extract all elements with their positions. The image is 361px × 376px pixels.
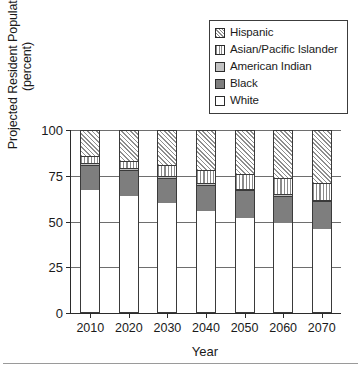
bar-segment-white-2050[interactable] [235,218,255,313]
bar-segment-white-2020[interactable] [119,196,139,313]
y-axis-tick-mark [66,176,71,177]
x-axis-tick-label: 2050 [231,321,259,335]
bar-segment-american-indian-2010[interactable] [80,163,100,165]
bar-segment-asian-pacific-islander-2020[interactable] [119,161,139,168]
bar-segment-american-indian-2040[interactable] [196,183,216,185]
bar-segment-hispanic-2040[interactable] [196,130,216,170]
bar-segment-hispanic-2060[interactable] [273,130,293,178]
legend-item-label: Black [230,75,258,92]
x-axis-tick-label: 2010 [76,321,104,335]
y-axis-title-line2: (percent) [20,42,34,91]
y-axis-tick-mark [66,313,71,314]
bar-segment-asian-pacific-islander-2060[interactable] [273,178,293,194]
legend-item-label: White [230,92,259,109]
bar-segment-asian-pacific-islander-2070[interactable] [312,183,332,199]
x-axis-tick-label: 2060 [269,321,297,335]
bar-segment-american-indian-2030[interactable] [157,176,177,178]
x-axis-tick-mark [129,313,130,318]
x-axis-tick-mark [245,313,246,318]
bar-2030[interactable] [157,130,177,313]
legend-item-hispanic[interactable]: Hispanic [215,24,342,41]
bar-segment-white-2060[interactable] [273,223,293,313]
x-axis-tick-mark [322,313,323,318]
y-axis-tick-mark [66,267,71,268]
bar-segment-white-2010[interactable] [80,190,100,313]
y-axis-tick-mark [66,130,71,131]
y-axis-tick-label: 50 [49,214,63,229]
legend-item-label: Asian/Pacific Islander [230,41,338,58]
bar-segment-black-2050[interactable] [235,190,255,217]
bar-segment-asian-pacific-islander-2010[interactable] [80,156,100,163]
bar-segment-american-indian-2050[interactable] [235,189,255,191]
black-swatch-icon [215,79,225,89]
y-axis-title: Projected Resident Population (percent) [6,0,34,158]
bar-2040[interactable] [196,130,216,313]
hispanic-swatch-icon [215,28,225,38]
bar-2010[interactable] [80,130,100,313]
chart-figure: Hispanic Asian/Pacific Islander American… [0,0,361,376]
bar-segment-white-2030[interactable] [157,203,177,313]
legend-item-white[interactable]: White [215,92,342,109]
y-axis-title-line1: Projected Resident Population [6,0,20,149]
bar-segment-white-2040[interactable] [196,211,216,313]
bar-2060[interactable] [273,130,293,313]
bar-2020[interactable] [119,130,139,313]
bar-2050[interactable] [235,130,255,313]
y-axis-tick-label: 0 [56,306,63,321]
bar-segment-american-indian-2060[interactable] [273,194,293,196]
bar-segment-black-2030[interactable] [157,178,177,204]
bar-segment-hispanic-2030[interactable] [157,130,177,165]
bar-segment-black-2070[interactable] [312,201,332,228]
bar-segment-american-indian-2070[interactable] [312,200,332,202]
asian-pacific-islander-swatch-icon [215,45,225,55]
bar-segment-black-2020[interactable] [119,170,139,196]
plot-area: 0255075100 2010202020302040205020602070 [70,130,341,314]
x-axis-tick-mark [206,313,207,318]
x-axis-tick-mark [167,313,168,318]
y-axis-tick-label: 25 [49,260,63,275]
bar-segment-hispanic-2050[interactable] [235,130,255,174]
x-axis-tick-label: 2040 [192,321,220,335]
legend-item-black[interactable]: Black [215,75,342,92]
legend-item-american-indian[interactable]: American Indian [215,58,342,75]
legend-item-label: American Indian [230,58,312,75]
bar-segment-hispanic-2010[interactable] [80,130,100,156]
x-axis-tick-mark [283,313,284,318]
y-axis-tick-label: 75 [49,168,63,183]
white-swatch-icon [215,96,225,106]
x-axis-tick-label: 2070 [308,321,336,335]
american-indian-swatch-icon [215,62,225,72]
bar-segment-black-2010[interactable] [80,165,100,191]
x-axis-tick-mark [90,313,91,318]
y-axis-tick-mark [66,222,71,223]
bar-segment-hispanic-2020[interactable] [119,130,139,161]
bar-segment-hispanic-2070[interactable] [312,130,332,183]
bar-segment-asian-pacific-islander-2050[interactable] [235,174,255,189]
chart-legend: Hispanic Asian/Pacific Islander American… [209,20,348,114]
bar-segment-black-2060[interactable] [273,196,293,223]
bar-segment-black-2040[interactable] [196,185,216,211]
bar-segment-asian-pacific-islander-2030[interactable] [157,165,177,176]
legend-item-asian-pacific-islander[interactable]: Asian/Pacific Islander [215,41,342,58]
x-axis-title: Year [70,344,340,359]
x-axis-tick-label: 2020 [115,321,143,335]
x-axis-tick-label: 2030 [154,321,182,335]
bar-segment-asian-pacific-islander-2040[interactable] [196,170,216,183]
y-axis-tick-label: 100 [41,123,63,138]
legend-item-label: Hispanic [230,24,273,41]
footer-divider [3,363,358,364]
bar-2070[interactable] [312,130,332,313]
bar-segment-white-2070[interactable] [312,229,332,313]
bar-segment-american-indian-2020[interactable] [119,168,139,170]
